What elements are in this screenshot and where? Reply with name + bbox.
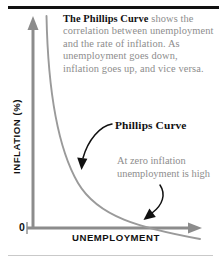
phillips-curve-figure: The Phillips Curve shows the correlation… <box>0 0 219 270</box>
arrow-up-icon <box>28 16 39 30</box>
description-lead: The Phillips Curve <box>63 13 149 24</box>
arrow-right-icon <box>188 223 202 234</box>
zero-inflation-note: At zero inflation unemployment is high <box>117 155 213 180</box>
description-text: The Phillips Curve shows the correlation… <box>63 13 215 75</box>
curved-arrow-down-left-icon <box>77 124 112 170</box>
phillips-curve-callout-label: Phillips Curve <box>115 119 187 131</box>
x-axis-label: UNEMPLOYMENT <box>72 232 160 243</box>
origin-label: 0 <box>19 221 25 233</box>
curved-arrow-down-icon <box>144 185 164 220</box>
y-axis-label: INFLATION (%) <box>11 89 22 185</box>
y-axis <box>28 16 39 229</box>
